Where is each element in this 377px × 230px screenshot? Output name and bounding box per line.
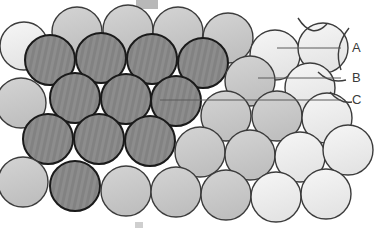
sphere-light-26: [323, 125, 373, 175]
sphere-dark-20: [23, 114, 73, 164]
sphere-layer: [0, 5, 373, 222]
sphere-light-32: [251, 172, 301, 222]
label-B: B: [352, 70, 361, 85]
sphere-dark-22: [125, 116, 175, 166]
sphere-mid-27: [0, 157, 48, 207]
label-C: C: [352, 92, 361, 107]
sphere-light-33: [301, 169, 351, 219]
sphere-dark-28: [50, 161, 100, 211]
figure-root: ABC: [0, 0, 377, 230]
sphere-mid-30: [151, 167, 201, 217]
sphere-dark-21: [74, 114, 124, 164]
bottom-faint-mark: [135, 222, 143, 228]
label-A: A: [352, 40, 361, 55]
sphere-mid-29: [101, 166, 151, 216]
sphere-mid-31: [201, 170, 251, 220]
sphere-packing-diagram: ABC: [0, 0, 377, 230]
label-layer: ABC: [352, 40, 361, 107]
